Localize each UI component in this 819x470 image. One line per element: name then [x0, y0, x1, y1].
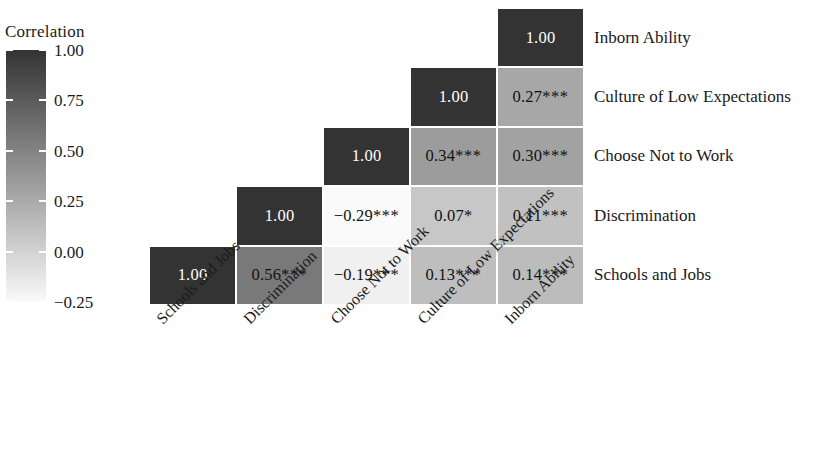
colorbar-tick-label: −0.25 [54, 294, 93, 311]
heatmap-cell[interactable]: 1.00 [323, 127, 410, 186]
colorbar-tick-label: 0.50 [54, 143, 84, 160]
row-label-group: Inborn AbilityCulture of Low Expectation… [594, 8, 819, 305]
significance-stars: *** [373, 206, 399, 226]
colorbar-tick-left [6, 251, 13, 253]
colorbar-tick-label: 0.75 [54, 92, 84, 109]
row-label: Culture of Low Expectations [594, 67, 791, 126]
cell-value: 0.07 [434, 206, 464, 226]
heatmap-cell[interactable]: 0.27*** [497, 67, 584, 126]
colorbar [6, 50, 46, 302]
cell-value: 0.34 [426, 146, 456, 166]
significance-stars: *** [542, 206, 568, 226]
colorbar-tick-right [39, 99, 46, 101]
cell-value: 1.00 [439, 87, 469, 107]
cell-value: −0.29 [334, 206, 373, 226]
legend-title: Correlation [5, 22, 85, 42]
heatmap-cell[interactable]: 0.34*** [410, 127, 497, 186]
cell-value: 1.00 [352, 146, 382, 166]
significance-stars: *** [542, 146, 568, 166]
colorbar-tick-right [39, 301, 46, 303]
row-label: Discrimination [594, 186, 696, 245]
heatmap-cell[interactable]: 1.00 [497, 8, 584, 67]
heatmap-cell[interactable]: 1.00 [410, 67, 497, 126]
colorbar-tick-left [6, 200, 13, 202]
colorbar-tick-left [6, 301, 13, 303]
colorbar-tick-right [39, 150, 46, 152]
row-label: Inborn Ability [594, 8, 691, 67]
colorbar-tick-left [6, 150, 13, 152]
colorbar-gradient [6, 50, 46, 302]
colorbar-tick-label: 0.25 [54, 193, 84, 210]
colorbar-tick-right [39, 251, 46, 253]
heatmap-cell[interactable]: 0.30*** [497, 127, 584, 186]
correlation-heatmap-figure: Correlation 1.000.750.500.250.00−0.25 1.… [0, 0, 819, 470]
row-label: Choose Not to Work [594, 127, 734, 186]
cell-value: 0.30 [513, 146, 543, 166]
colorbar-tick-right [39, 200, 46, 202]
cell-value: 0.27 [513, 87, 543, 107]
colorbar-tick-labels: 1.000.750.500.250.00−0.25 [54, 50, 124, 302]
cell-value: 1.00 [265, 206, 295, 226]
row-label: Schools and Jobs [594, 246, 711, 305]
heatmap-cell[interactable]: −0.29*** [323, 186, 410, 245]
heatmap-cell[interactable]: 1.00 [236, 186, 323, 245]
colorbar-tick-right [39, 49, 46, 51]
significance-stars: *** [542, 87, 568, 107]
colorbar-tick-label: 0.00 [54, 244, 84, 261]
colorbar-tick-label: 1.00 [54, 42, 84, 59]
cell-value: 1.00 [526, 28, 556, 48]
colorbar-tick-left [6, 99, 13, 101]
significance-stars: * [464, 206, 473, 226]
colorbar-tick-left [6, 49, 13, 51]
significance-stars: *** [455, 146, 481, 166]
